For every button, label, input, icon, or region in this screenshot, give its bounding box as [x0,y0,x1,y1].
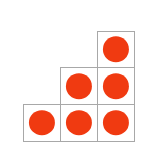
red-dot-icon [103,110,129,136]
grid-cell-r1c2 [60,31,97,68]
red-dot-icon [29,110,55,136]
grid-cell-r2c2 [60,67,98,105]
grid-cell-r3c3 [97,104,135,142]
grid-cell-r1c3 [97,31,135,69]
grid-cell-r3c1 [23,104,61,142]
red-dot-icon [103,36,129,62]
dot-array-figure [0,0,143,148]
grid-cell-r3c2 [60,104,98,142]
red-dot-icon [66,73,92,99]
grid-cell-r2c1 [23,68,60,105]
red-dot-icon [103,73,129,99]
red-dot-icon [66,110,92,136]
dot-grid [23,31,135,141]
grid-cell-r2c3 [97,67,135,105]
grid-cell-r1c1 [23,31,60,68]
